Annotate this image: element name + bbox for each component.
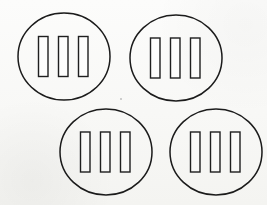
scan-speck [120, 98, 122, 100]
circle-bottom-left [60, 109, 152, 195]
bar-bottom-right-2 [211, 132, 221, 172]
bar-top-left-3 [79, 37, 89, 77]
bar-top-left-1 [39, 37, 49, 77]
circle-bottom-right [170, 109, 262, 195]
bar-bottom-left-1 [81, 132, 91, 172]
bar-bottom-right-3 [231, 132, 241, 172]
bar-bottom-right-1 [191, 132, 201, 172]
bar-bottom-left-2 [101, 132, 111, 172]
drawing-canvas [0, 0, 267, 205]
circle-top-right [130, 15, 222, 101]
figure-svg [0, 0, 267, 205]
circle-top-left [18, 13, 110, 100]
bar-top-left-2 [59, 37, 69, 77]
bar-top-right-1 [151, 38, 161, 78]
bar-bottom-left-3 [121, 132, 131, 172]
bar-top-right-2 [171, 38, 181, 78]
bar-top-right-3 [191, 38, 201, 78]
